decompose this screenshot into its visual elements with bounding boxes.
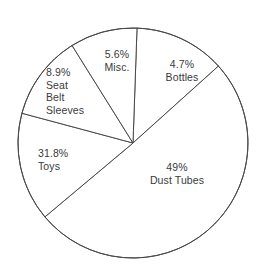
slice-label-dust-tubes: 49% Dust Tubes — [132, 161, 222, 186]
slice-name-bottles: Bottles — [146, 71, 218, 84]
slice-name-seat-belt-sleeves-line2: Belt — [46, 91, 108, 104]
slice-label-bottles: 4.7% Bottles — [146, 58, 218, 83]
slice-name-seat-belt-sleeves-line3: Sleeves — [46, 104, 108, 117]
pie-chart-graphic — [0, 0, 262, 267]
slice-percent-misc: 5.6% — [92, 48, 142, 61]
slice-name-seat-belt-sleeves-line1: Seat — [46, 79, 108, 92]
slice-name-dust-tubes: Dust Tubes — [132, 174, 222, 187]
slice-percent-dust-tubes: 49% — [132, 161, 222, 174]
slice-percent-toys: 31.8% — [38, 147, 108, 160]
slice-percent-seat-belt-sleeves: 8.9% — [46, 66, 108, 79]
slice-label-seat-belt-sleeves: 8.9% Seat Belt Sleeves — [46, 66, 108, 116]
slice-percent-bottles: 4.7% — [146, 58, 218, 71]
slice-label-toys: 31.8% Toys — [38, 147, 108, 172]
slice-name-toys: Toys — [38, 160, 108, 173]
pie-chart: 4.7% Bottles 5.6% Misc. 8.9% Seat Belt S… — [0, 0, 262, 267]
